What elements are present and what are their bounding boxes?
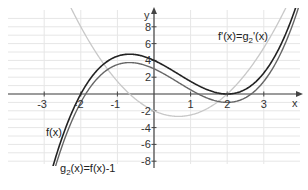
function-plot: x y -3-2-1123 8642-2-4-6-8 f'(x)=g2'(x) … [0, 0, 308, 190]
y-tick-label: -2 [141, 105, 151, 117]
y-tick-label: 4 [145, 54, 151, 66]
x-tick-labels: -3-2-1123 [37, 98, 267, 110]
y-tick-label: -6 [141, 138, 151, 150]
f-label: f(x) [46, 126, 62, 138]
x-tick-label: -3 [37, 98, 47, 110]
y-axis-label: y [144, 9, 150, 21]
x-tick-label: 3 [261, 98, 267, 110]
x-tick-label: -2 [74, 98, 84, 110]
y-tick-label: 2 [145, 71, 151, 83]
y-tick-label: 6 [145, 38, 151, 50]
y-tick-label: 8 [145, 21, 151, 33]
g2-label: g2(x)=f(x)-1 [60, 162, 116, 177]
y-tick-label: -4 [141, 122, 151, 134]
x-tick-label: 2 [224, 98, 230, 110]
derivative-label: f'(x)=g2'(x) [218, 30, 268, 45]
x-tick-label: -1 [110, 98, 120, 110]
x-axis-label: x [292, 97, 298, 109]
y-tick-label: -8 [141, 155, 151, 167]
x-tick-label: 1 [188, 98, 194, 110]
